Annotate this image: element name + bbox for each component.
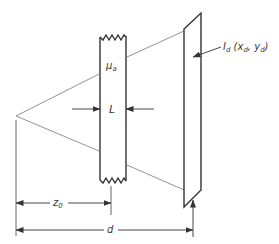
diagram-canvas: L μa Id (xd, yd) z0 d bbox=[0, 0, 279, 244]
detector-leader-arrow bbox=[193, 47, 221, 57]
detector-plane bbox=[184, 13, 201, 207]
slab-top-break bbox=[100, 35, 126, 40]
absorption-coefficient-label: μa bbox=[105, 60, 117, 73]
slab-bottom-break bbox=[100, 178, 126, 183]
source-distance-label: z0 bbox=[52, 197, 63, 210]
extension-lines bbox=[16, 120, 111, 236]
ray-upper-incident bbox=[16, 74, 99, 116]
ray-lower-transmitted bbox=[127, 165, 184, 190]
thickness-label: L bbox=[109, 103, 115, 116]
detector-distance-label: d bbox=[107, 224, 114, 235]
detector-outline bbox=[184, 13, 201, 207]
detector-intensity-label: Id (xd, yd) bbox=[223, 41, 269, 54]
diagram-svg: L μa Id (xd, yd) z0 d bbox=[0, 0, 279, 244]
ray-lower-incident bbox=[16, 116, 99, 151]
source-to-detector-dimension bbox=[16, 200, 193, 237]
ray-upper-transmitted bbox=[127, 31, 184, 57]
